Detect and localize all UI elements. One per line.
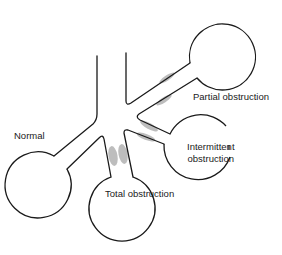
obstruction-shading bbox=[107, 71, 176, 167]
alveolus-normal bbox=[5, 152, 71, 218]
label-partial-obstruction: Partial obstruction bbox=[193, 91, 269, 102]
alveolus-total bbox=[89, 177, 155, 241]
trachea-left-wall bbox=[54, 56, 97, 156]
label-intermittent-line2: obstruction bbox=[187, 153, 235, 165]
total-normal-wall bbox=[67, 136, 111, 177]
alveolus-partial bbox=[189, 24, 255, 90]
airway-diagram-svg bbox=[0, 0, 282, 255]
label-intermittent-line1: Intermittent bbox=[187, 141, 235, 153]
label-total-obstruction: Total obstruction bbox=[105, 188, 174, 199]
intermittent-total-wall bbox=[124, 130, 164, 177]
airway-diagram: Normal Partial obstruction Intermittent … bbox=[0, 0, 282, 255]
label-intermittent-obstruction: Intermittent obstruction bbox=[187, 141, 235, 165]
trachea-right-wall bbox=[126, 53, 190, 104]
alveolus-intermittent-upper bbox=[170, 115, 226, 134]
label-normal: Normal bbox=[14, 130, 45, 141]
